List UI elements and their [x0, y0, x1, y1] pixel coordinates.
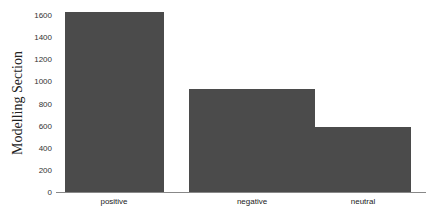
y-tick-label: 1200 — [34, 55, 52, 64]
bar-negative — [189, 89, 315, 192]
x-tick-label: negative — [237, 197, 267, 206]
y-tick-label: 800 — [39, 100, 52, 109]
y-tick-label: 400 — [39, 144, 52, 153]
y-tick-label: 1600 — [34, 11, 52, 20]
y-tick-label: 0 — [48, 188, 52, 197]
x-tick-label: positive — [100, 197, 127, 206]
y-tick-label: 200 — [39, 166, 52, 175]
y-axis-label: Modelling Section — [10, 51, 26, 155]
bar-positive — [65, 12, 164, 192]
x-tick-label: neutral — [351, 197, 375, 206]
y-tick-label: 600 — [39, 122, 52, 131]
bar-neutral — [314, 127, 411, 192]
y-tick-label: 1000 — [34, 77, 52, 86]
y-tick-label: 1400 — [34, 33, 52, 42]
x-axis-line — [56, 192, 426, 193]
